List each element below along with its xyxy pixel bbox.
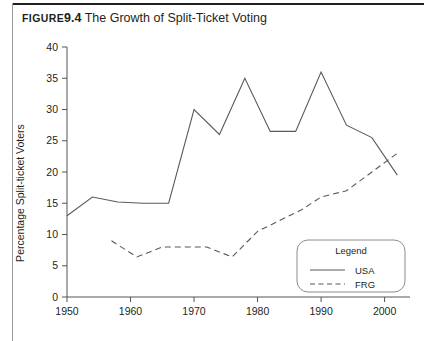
- figure-panel: Figure9.4 The Growth of Split-Ticket Vot…: [0, 0, 424, 341]
- y-axis-tick-label: 35: [46, 72, 58, 84]
- legend-label-frg: FRG: [355, 279, 375, 290]
- y-axis-tick-label: 0: [52, 291, 58, 303]
- x-axis-tick-label: 1970: [182, 305, 206, 317]
- y-axis-tick-label: 25: [46, 134, 58, 146]
- legend-title: Legend: [335, 245, 367, 256]
- legend-label-usa: USA: [355, 265, 375, 276]
- x-axis-tick-label: 1980: [246, 305, 270, 317]
- x-axis: 195019601970198019902000: [55, 297, 410, 317]
- figure-title: The Growth of Split-Ticket Voting: [85, 11, 267, 25]
- chart-legend[interactable]: LegendUSAFRG: [297, 240, 405, 292]
- y-axis-tick-label: 5: [52, 259, 58, 271]
- x-axis-tick-label: 2000: [373, 305, 397, 317]
- y-axis: 0510152025303540: [46, 41, 67, 303]
- series-line-usa: [67, 72, 397, 216]
- y-axis-tick-label: 20: [46, 166, 58, 178]
- y-axis-title: Percentage Split-ticket Voters: [14, 124, 26, 262]
- x-axis-tick-label: 1950: [55, 305, 79, 317]
- figure-label: Figure: [22, 12, 64, 24]
- line-chart: 0510152025303540 19501960197019801990200…: [0, 28, 424, 341]
- y-axis-tick-label: 15: [46, 197, 58, 209]
- x-axis-tick-label: 1960: [119, 305, 143, 317]
- x-axis-tick-label: 1990: [309, 305, 333, 317]
- y-axis-tick-label: 40: [46, 41, 58, 53]
- chart-plot-area: 0510152025303540 19501960197019801990200…: [0, 28, 424, 341]
- figure-caption: Figure9.4 The Growth of Split-Ticket Vot…: [22, 11, 267, 26]
- y-axis-tick-label: 10: [46, 228, 58, 240]
- figure-top-rule: [12, 3, 424, 5]
- figure-number: 9.4: [64, 11, 81, 25]
- y-axis-tick-label: 30: [46, 103, 58, 115]
